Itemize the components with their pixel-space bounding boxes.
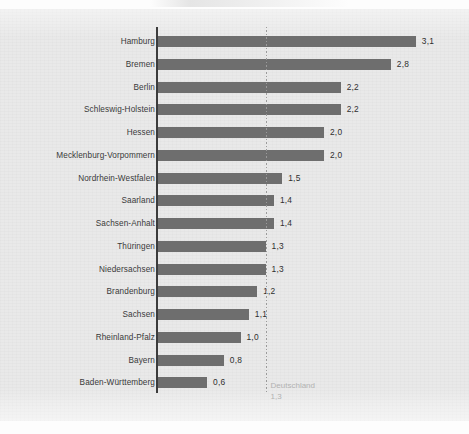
bar xyxy=(157,309,249,320)
category-label: Mecklenburg-Vorpommern xyxy=(56,144,155,167)
bar-row: Sachsen-Anhalt1,4 xyxy=(0,212,469,235)
bar-value-label: 1,4 xyxy=(280,189,292,212)
deutschland-reference-annotation: Deutschland 1,3 xyxy=(271,380,315,402)
bar-value-label: 1,4 xyxy=(280,212,292,235)
category-label: Hamburg xyxy=(121,30,155,53)
bar xyxy=(157,355,224,366)
value-axis-line xyxy=(156,27,158,393)
bar xyxy=(157,36,416,47)
bar xyxy=(157,332,241,343)
bar xyxy=(157,218,274,229)
bar-value-label: 2,0 xyxy=(330,144,342,167)
bar xyxy=(157,104,341,115)
bar-value-label: 2,2 xyxy=(347,76,359,99)
bar xyxy=(157,377,207,388)
bar-row: Thüringen1,3 xyxy=(0,235,469,258)
bar-row: Mecklenburg-Vorpommern2,0 xyxy=(0,144,469,167)
bar-value-label: 0,8 xyxy=(230,349,242,372)
bar-value-label: 0,6 xyxy=(213,371,225,394)
category-label: Thüringen xyxy=(117,235,155,258)
category-label: Sachsen-Anhalt xyxy=(96,212,155,235)
bar-row: Sachsen1,1 xyxy=(0,303,469,326)
bar-row: Schleswig-Holstein2,2 xyxy=(0,98,469,121)
bar-row: Niedersachsen1,3 xyxy=(0,258,469,281)
bar-row: Hessen2,0 xyxy=(0,121,469,144)
reference-label: Deutschland xyxy=(271,380,315,391)
bar-row: Rheinland-Pfalz1,0 xyxy=(0,326,469,349)
bar xyxy=(157,286,257,297)
bar-row: Saarland1,4 xyxy=(0,189,469,212)
category-label: Schleswig-Holstein xyxy=(84,98,155,121)
category-label: Bayern xyxy=(128,349,155,372)
category-label: Sachsen xyxy=(122,303,155,326)
bar xyxy=(157,173,282,184)
category-label: Berlin xyxy=(133,76,155,99)
deutschland-reference-line xyxy=(266,27,267,393)
bar-row: Berlin2,2 xyxy=(0,76,469,99)
reference-value: 1,3 xyxy=(271,391,315,402)
bar-row: Nordrhein-Westfalen1,5 xyxy=(0,167,469,190)
bar-value-label: 1,3 xyxy=(272,258,284,281)
category-label: Rheinland-Pfalz xyxy=(96,326,155,349)
bar xyxy=(157,82,341,93)
bar-row: Hamburg3,1 xyxy=(0,30,469,53)
bar xyxy=(157,150,324,161)
bar-value-label: 3,1 xyxy=(422,30,434,53)
bar-row: Bayern0,8 xyxy=(0,349,469,372)
category-label: Brandenburg xyxy=(107,280,155,303)
category-label: Niedersachsen xyxy=(99,258,155,281)
horizontal-bar-chart: Hamburg3,1Bremen2,8Berlin2,2Schleswig-Ho… xyxy=(0,0,469,434)
bar-row: Bremen2,8 xyxy=(0,53,469,76)
bar-row: Brandenburg1,2 xyxy=(0,280,469,303)
bar-value-label: 1,3 xyxy=(272,235,284,258)
category-label: Saarland xyxy=(121,189,155,212)
bar xyxy=(157,127,324,138)
bar xyxy=(157,264,266,275)
category-label: Hessen xyxy=(127,121,155,144)
bar xyxy=(157,195,274,206)
bar-row: Baden-Württemberg0,6 xyxy=(0,371,469,394)
category-label: Bremen xyxy=(126,53,155,76)
category-label: Baden-Württemberg xyxy=(80,371,155,394)
bar-value-label: 2,0 xyxy=(330,121,342,144)
bar-value-label: 1,5 xyxy=(288,167,300,190)
bar-value-label: 2,8 xyxy=(397,53,409,76)
bar xyxy=(157,241,266,252)
bar-value-label: 1,0 xyxy=(247,326,259,349)
bar xyxy=(157,59,391,70)
category-label: Nordrhein-Westfalen xyxy=(78,167,155,190)
bar-value-label: 2,2 xyxy=(347,98,359,121)
